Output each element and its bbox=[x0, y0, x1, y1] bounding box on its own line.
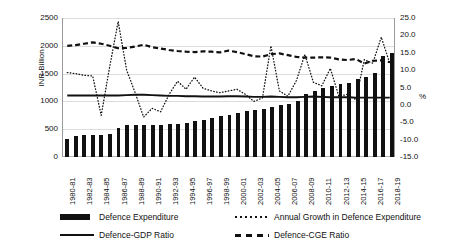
y-tick-label-right: -10.0 bbox=[400, 136, 418, 144]
x-tick-label: 2016-17 bbox=[377, 177, 385, 205]
y-tick-label-left: 2000 bbox=[40, 42, 58, 50]
x-tick-label: 1980-81 bbox=[69, 177, 77, 205]
y-tick-label-right: 10.0 bbox=[400, 66, 416, 74]
x-tick-label: 2006-07 bbox=[291, 177, 299, 205]
y-tick-label-right: -15.0 bbox=[400, 153, 418, 161]
annual-growth-line bbox=[67, 21, 390, 117]
legend-label: Annual Growth in Defence Expenditure bbox=[274, 212, 421, 222]
x-tick-label: 2008-09 bbox=[308, 177, 316, 205]
x-tick-label: 1988-89 bbox=[138, 177, 146, 205]
bar-key-icon bbox=[60, 212, 94, 222]
legend-label: Defence-CGE Ratio bbox=[274, 230, 349, 240]
x-tick-label: 1986-87 bbox=[121, 177, 129, 205]
x-tick-label: 2012-13 bbox=[343, 177, 351, 205]
legend-item-defence-expenditure[interactable]: Defence Expenditure bbox=[60, 212, 178, 222]
x-tick-label: 2004-05 bbox=[274, 177, 282, 205]
legend-item-defence-gdp-ratio[interactable]: Defence-GDP Ratio bbox=[60, 230, 174, 240]
dotted-line-key-icon bbox=[235, 212, 269, 222]
x-tick-label: 1994-95 bbox=[189, 177, 197, 205]
y-tick-label-right: 20.0 bbox=[400, 31, 416, 39]
legend-item-annual-growth[interactable]: Annual Growth in Defence Expenditure bbox=[235, 212, 421, 222]
legend-item-defence-cge-ratio[interactable]: Defence-CGE Ratio bbox=[235, 230, 349, 240]
x-tick-label: 1996-97 bbox=[206, 177, 214, 205]
x-tick-label: 1992-93 bbox=[172, 177, 180, 205]
x-tick-label: 1982-83 bbox=[86, 177, 94, 205]
x-axis-ticks: 1980-811982-831984-851986-871988-891990-… bbox=[62, 159, 395, 207]
solid-line-key-icon bbox=[60, 230, 94, 240]
x-tick-label: 1984-85 bbox=[103, 177, 111, 205]
y-axis-right-ticks: -15.0-10.0-5.00.05.010.015.020.025.0 bbox=[398, 0, 430, 165]
chart-legend: Defence Expenditure Annual Growth in Def… bbox=[0, 210, 450, 246]
y-tick-label-left: 500 bbox=[45, 125, 58, 133]
y-tick-label-right: 5.0 bbox=[400, 84, 411, 92]
y-tick-label-right: 25.0 bbox=[400, 14, 416, 22]
y-tick-label-right: -5.0 bbox=[400, 118, 414, 126]
plot-area bbox=[62, 18, 395, 157]
x-tick-label: 2014-15 bbox=[360, 177, 368, 205]
x-tick-label: 1998-99 bbox=[223, 177, 231, 205]
y-axis-left-ticks: 05001000150020002500 bbox=[30, 0, 60, 165]
legend-label: Defence Expenditure bbox=[99, 212, 178, 222]
x-tick-label: 2000-01 bbox=[240, 177, 248, 205]
x-tick-label: 2010-11 bbox=[325, 178, 333, 205]
legend-label: Defence-GDP Ratio bbox=[99, 230, 174, 240]
y-tick-label-left: 2500 bbox=[40, 14, 58, 22]
y-tick-label-left: 1500 bbox=[40, 70, 58, 78]
y-tick-label-left: 0 bbox=[54, 153, 58, 161]
line-series-overlay bbox=[63, 18, 394, 157]
defence-cge-ratio-line bbox=[67, 42, 390, 63]
x-tick-label: 1990-91 bbox=[155, 177, 163, 205]
dashed-line-key-icon bbox=[235, 230, 269, 240]
x-tick-label: 2002-03 bbox=[257, 177, 265, 205]
y-tick-label-left: 1000 bbox=[40, 97, 58, 105]
y-tick-label-right: 0.0 bbox=[400, 101, 411, 109]
y-tick-label-right: 15.0 bbox=[400, 49, 416, 57]
defence-expenditure-chart: INR Billion % 05001000150020002500 -15.0… bbox=[0, 0, 450, 250]
x-tick-label: 2018-19 bbox=[394, 177, 402, 205]
